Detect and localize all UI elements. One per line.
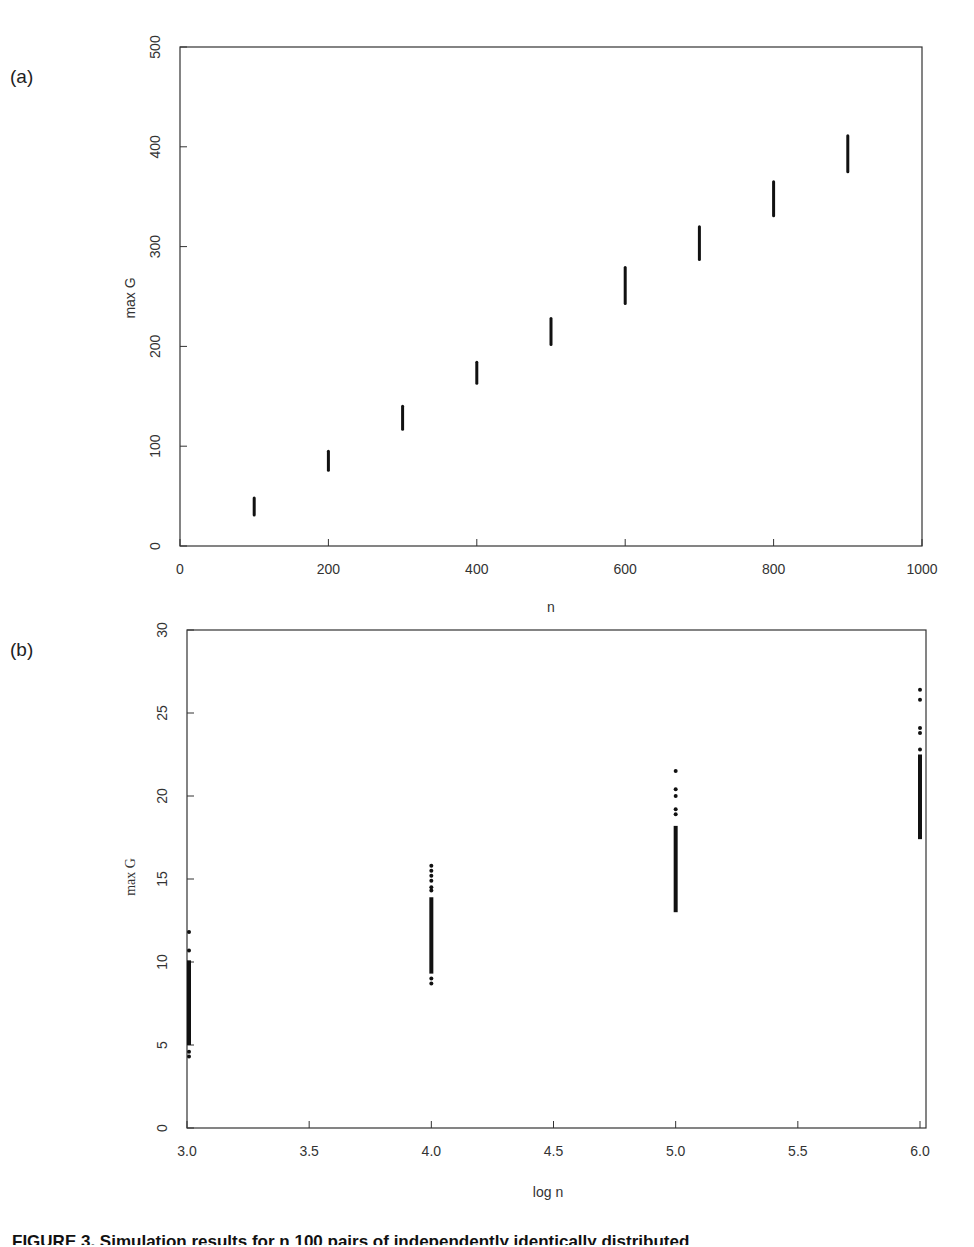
panel-a-x-axis-label: n [547,599,555,615]
panel-b-x-ticks: 3.03.54.04.55.05.56.0 [177,1121,930,1159]
panel-a-plot-frame [180,47,922,546]
data-point [429,864,433,868]
x-tick-label: 4.5 [544,1143,564,1159]
y-tick-label: 20 [154,788,170,804]
panel-b-marks [187,688,922,1059]
y-tick-label: 30 [154,622,170,638]
x-tick-label: 800 [762,561,786,577]
x-tick-label: 400 [465,561,489,577]
y-tick-label: 300 [147,235,163,259]
data-point [187,948,191,952]
figure: (a) 02004006008001000 0100200300400500 n… [0,0,974,1247]
data-point [918,698,922,702]
y-tick-label: 0 [147,542,163,550]
panel-b-plot-frame [187,630,926,1128]
panel-a: (a) 02004006008001000 0100200300400500 n… [10,35,938,615]
x-tick-label: 6.0 [910,1143,930,1159]
data-point [918,748,922,752]
x-tick-label: 200 [317,561,341,577]
data-point [918,688,922,692]
figure-caption: FIGURE 3. Simulation results for n 100 p… [12,1232,689,1247]
panel-a-y-ticks: 0100200300400500 [147,35,187,550]
data-point [187,1050,191,1054]
panel-a-label: (a) [10,66,33,87]
data-point [429,874,433,878]
panel-b: (b) 3.03.54.04.55.05.56.0 051015202530 l… [10,622,930,1200]
data-point [674,769,678,773]
y-tick-label: 25 [154,705,170,721]
panel-a-y-axis-label: max G [122,277,138,318]
data-point [429,977,433,981]
x-tick-label: 3.5 [299,1143,319,1159]
panel-b-x-axis-label: log n [533,1184,563,1200]
data-point [674,794,678,798]
y-tick-label: 100 [147,434,163,458]
data-point [429,879,433,883]
y-tick-label: 400 [147,135,163,159]
data-point [918,726,922,730]
x-tick-label: 5.0 [666,1143,686,1159]
panel-a-x-ticks: 02004006008001000 [176,539,938,577]
y-tick-label: 500 [147,35,163,59]
x-tick-label: 3.0 [177,1143,197,1159]
data-point [674,812,678,816]
panel-b-y-axis-label: max G [123,858,138,896]
y-tick-label: 10 [154,954,170,970]
data-point [429,889,433,893]
y-tick-label: 5 [154,1041,170,1049]
data-point [674,807,678,811]
x-tick-label: 4.0 [422,1143,442,1159]
panel-b-label: (b) [10,639,33,660]
x-tick-label: 5.5 [788,1143,808,1159]
data-point [187,930,191,934]
data-point [429,869,433,873]
data-point [429,982,433,986]
y-tick-label: 200 [147,335,163,359]
data-point [187,1055,191,1059]
data-point [918,731,922,735]
y-tick-label: 15 [154,871,170,887]
x-tick-label: 600 [614,561,638,577]
x-tick-label: 0 [176,561,184,577]
panel-a-marks [254,136,848,515]
data-point [674,787,678,791]
x-tick-label: 1000 [906,561,937,577]
y-tick-label: 0 [154,1124,170,1132]
